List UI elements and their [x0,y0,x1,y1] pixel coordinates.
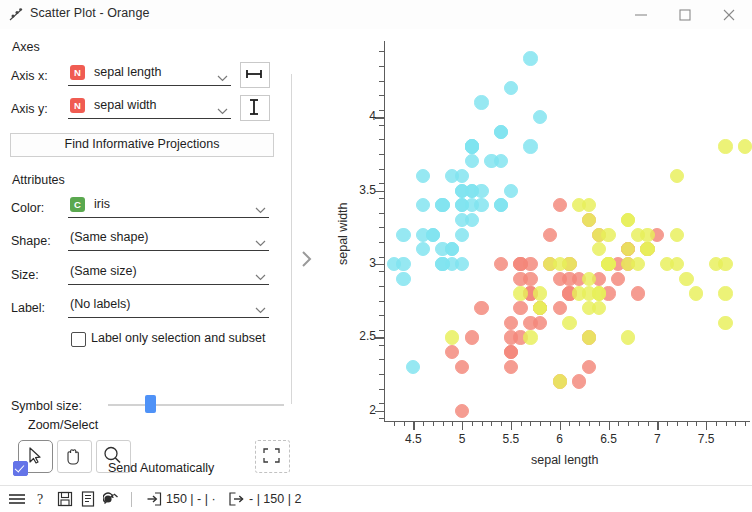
data-point[interactable] [582,330,596,344]
hamburger-menu-icon[interactable] [8,491,26,511]
data-point[interactable] [670,228,684,242]
data-point[interactable] [396,272,410,286]
data-point[interactable] [484,154,498,168]
data-point[interactable] [474,184,488,198]
data-point[interactable] [718,316,732,330]
clear-icon[interactable] [103,491,121,511]
data-point[interactable] [504,184,518,198]
data-point[interactable] [631,286,645,300]
data-point[interactable] [582,272,596,286]
help-icon[interactable]: ? [35,491,49,511]
data-point[interactable] [513,301,527,315]
data-point[interactable] [621,330,635,344]
data-point[interactable] [611,272,625,286]
data-point[interactable] [582,213,596,227]
axis-x-scale-button[interactable] [240,62,270,88]
data-point[interactable] [543,228,557,242]
data-point[interactable] [718,257,732,271]
axis-y-combobox[interactable]: N sepal width [68,96,231,119]
save-icon[interactable] [57,491,73,511]
symbol-size-slider-handle[interactable] [145,395,156,413]
axis-x-combobox[interactable]: N sepal length [68,63,231,86]
data-point[interactable] [689,286,703,300]
data-point[interactable] [445,242,459,256]
data-point[interactable] [553,272,567,286]
data-point[interactable] [455,404,469,418]
data-point[interactable] [562,316,576,330]
data-point[interactable] [445,345,459,359]
data-point[interactable] [416,169,430,183]
label-only-selection-checkbox[interactable] [71,332,86,347]
data-point[interactable] [523,257,537,271]
data-point[interactable] [553,374,567,388]
data-point[interactable] [455,228,469,242]
data-point[interactable] [504,81,518,95]
data-point[interactable] [494,125,508,139]
data-point[interactable] [553,198,567,212]
data-point[interactable] [592,228,606,242]
data-point[interactable] [553,301,567,315]
send-automatically-checkbox[interactable] [13,461,28,476]
color-combobox[interactable]: C iris [68,195,269,218]
data-point[interactable] [445,330,459,344]
data-point[interactable] [621,242,635,256]
reset-zoom-button[interactable] [255,440,290,473]
data-point[interactable] [631,228,645,242]
data-point[interactable] [494,198,508,212]
data-point[interactable] [533,286,547,300]
data-point[interactable] [494,257,508,271]
report-icon[interactable] [81,491,95,511]
data-point[interactable] [396,257,410,271]
data-point[interactable] [474,95,488,109]
data-point[interactable] [640,242,654,256]
pan-tool-button[interactable] [57,440,92,473]
data-point[interactable] [523,330,537,344]
data-point[interactable] [504,330,518,344]
data-point[interactable] [435,257,449,271]
data-point[interactable] [504,360,518,374]
data-point[interactable] [416,242,430,256]
data-point[interactable] [474,301,488,315]
data-point[interactable] [718,286,732,300]
panel-expander-button[interactable] [298,245,316,273]
data-point[interactable] [465,330,479,344]
data-point[interactable] [396,228,410,242]
data-point[interactable] [582,360,596,374]
size-combobox[interactable]: (Same size) [68,262,269,285]
data-point[interactable] [718,139,732,153]
data-point[interactable] [592,242,606,256]
data-point[interactable] [455,184,469,198]
data-point[interactable] [465,139,479,153]
data-point[interactable] [523,51,537,65]
data-point[interactable] [670,257,684,271]
data-point[interactable] [455,360,469,374]
data-point[interactable] [572,374,586,388]
data-point[interactable] [416,228,430,242]
data-point[interactable] [465,154,479,168]
data-point[interactable] [621,213,635,227]
data-point[interactable] [523,139,537,153]
find-informative-projections-button[interactable]: Find Informative Projections [10,133,274,157]
data-point[interactable] [601,257,615,271]
close-button[interactable] [708,0,752,29]
data-point[interactable] [406,360,420,374]
data-point[interactable] [455,257,469,271]
data-point[interactable] [533,316,547,330]
data-point[interactable] [738,139,752,153]
shape-combobox[interactable]: (Same shape) [68,228,269,251]
axis-y-scale-button[interactable] [240,95,270,121]
data-point[interactable] [504,345,518,359]
data-point[interactable] [513,286,527,300]
symbol-size-slider-track[interactable] [108,404,284,406]
data-point[interactable] [504,316,518,330]
label-combobox[interactable]: (No labels) [68,295,269,318]
data-point[interactable] [533,110,547,124]
data-point[interactable] [670,169,684,183]
data-point[interactable] [582,286,596,300]
data-point[interactable] [679,272,693,286]
data-point[interactable] [435,198,449,212]
scatter-plot-canvas[interactable]: 4.555.566.577.522.533.54 sepal width sep… [318,35,752,480]
minimize-button[interactable] [620,0,664,29]
data-point[interactable] [523,272,537,286]
maximize-button[interactable] [664,0,708,29]
